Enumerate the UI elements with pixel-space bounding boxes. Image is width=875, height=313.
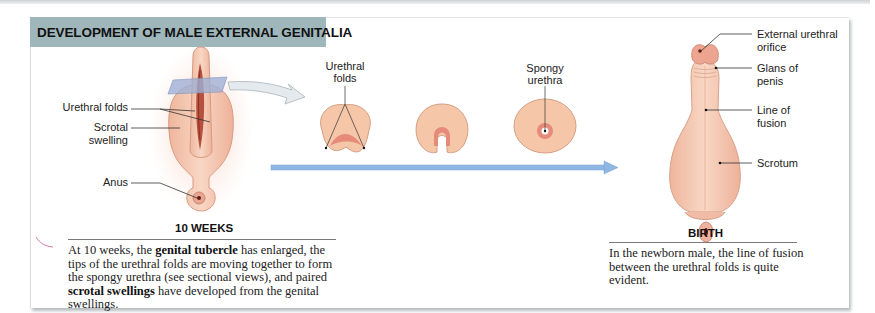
- newborn-illustration: [670, 45, 741, 242]
- caption-rule-birth: [609, 242, 797, 243]
- label-section-urethral-folds-line2: folds: [320, 72, 370, 85]
- term-genital-tubercle: genital tubercle: [155, 243, 238, 257]
- pen-annotation-mark: [36, 237, 53, 247]
- label-scrotal-swelling-line2: swelling: [60, 134, 128, 147]
- caption-rule-10-weeks: [68, 239, 336, 240]
- label-line-of-fusion-line2: fusion: [757, 117, 786, 130]
- timeline-arrow: [271, 161, 618, 174]
- label-scrotum: Scrotum: [757, 157, 798, 170]
- label-glans-line1: Glans of: [757, 62, 798, 75]
- section-view-2: [416, 104, 468, 153]
- stage-label-10-weeks: 10 WEEKS: [175, 222, 233, 234]
- label-anus: Anus: [60, 176, 128, 189]
- caption-10-weeks: At 10 weeks, the genital tubercle has en…: [68, 244, 344, 312]
- section-view-3: [514, 86, 576, 153]
- label-glans-line2: penis: [757, 75, 783, 88]
- label-external-urethral-orifice-line1: External urethral: [757, 28, 838, 41]
- term-scrotal-swellings: scrotal swellings: [68, 284, 155, 298]
- embryo-10-weeks-illustration: [149, 45, 305, 215]
- caption-birth: In the newborn male, the line of fusion …: [609, 247, 809, 288]
- stage-label-birth: BIRTH: [688, 227, 723, 239]
- label-line-of-fusion-line1: Line of: [757, 104, 790, 117]
- label-external-urethral-orifice-line2: orifice: [757, 41, 786, 54]
- label-scrotal-swelling-line1: Scrotal: [60, 121, 128, 134]
- label-spongy-urethra-line2: urethra: [520, 74, 570, 87]
- label-urethral-folds: Urethral folds: [60, 101, 128, 114]
